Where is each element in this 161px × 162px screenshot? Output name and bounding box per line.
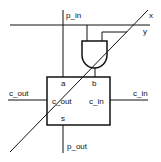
port-s: s (61, 114, 65, 123)
port-c-out: c_out (52, 97, 72, 106)
diagonal-x-wire (10, 10, 148, 152)
and-gate (82, 41, 107, 68)
label-y: y (143, 27, 147, 36)
label-x: x (149, 11, 153, 20)
port-a: a (61, 79, 66, 88)
port-b: b (92, 79, 97, 88)
port-c-in: c_in (89, 97, 104, 106)
label-c-out-wire: c_out (9, 89, 29, 98)
gate-input-b-wire (102, 32, 127, 41)
label-c-in-wire: c_in (133, 89, 148, 98)
label-p-in: p_in (66, 11, 81, 20)
label-p-out: p_out (67, 142, 88, 151)
circuit-diagram: p_in x y c_out c_in p_out a b c_out c_in… (0, 0, 161, 162)
